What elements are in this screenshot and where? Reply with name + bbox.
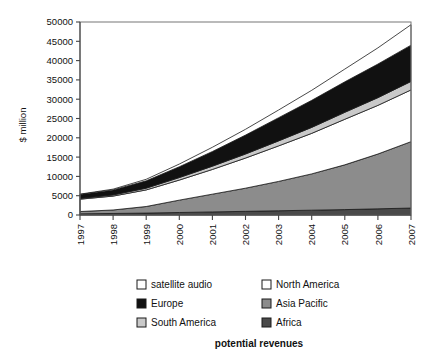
legend-label: Asia Pacific (276, 298, 328, 309)
legend-label: Europe (151, 298, 184, 309)
x-tick-label: 2007 (406, 224, 417, 245)
x-tick-label: 2002 (240, 224, 251, 245)
x-tick-label: 2006 (373, 224, 384, 245)
y-tick-label: 40000 (47, 55, 73, 66)
x-tick-label: 2003 (273, 224, 284, 245)
legend-swatch (137, 299, 146, 308)
y-tick-label: 10000 (47, 171, 73, 182)
y-tick-label: 50000 (47, 16, 73, 27)
chart-legend: satellite audioNorth AmericaEuropeAsia P… (137, 279, 340, 328)
y-tick-label: 20000 (47, 132, 73, 143)
legend-swatch (262, 318, 271, 327)
y-tick-label: 15000 (47, 152, 73, 163)
y-axis-title: $ million (17, 108, 28, 143)
legend-item-south-america[interactable]: South America (137, 317, 216, 328)
legend-label: South America (151, 317, 216, 328)
legend-item-africa[interactable]: Africa (262, 317, 302, 328)
chart-title: potential revenues (215, 338, 304, 349)
legend-swatch (262, 299, 271, 308)
y-tick-label: 25000 (47, 113, 73, 124)
legend-label: North America (276, 279, 340, 290)
legend-item-north-america[interactable]: North America (262, 279, 340, 290)
legend-label: Africa (276, 317, 302, 328)
x-tick-label: 2004 (306, 224, 317, 245)
stacked-area-chart: 0500010000150002000025000300003500040000… (0, 0, 427, 360)
x-tick-label: 2001 (207, 224, 218, 245)
legend-swatch (137, 318, 146, 327)
y-tick-label: 45000 (47, 36, 73, 47)
y-axis: 0500010000150002000025000300003500040000… (47, 16, 80, 220)
legend-label: satellite audio (151, 279, 213, 290)
legend-item-europe[interactable]: Europe (137, 298, 184, 309)
legend-swatch (137, 280, 146, 289)
y-tick-label: 30000 (47, 94, 73, 105)
legend-item-asia-pacific[interactable]: Asia Pacific (262, 298, 328, 309)
legend-item-satellite-audio[interactable]: satellite audio (137, 279, 213, 290)
x-tick-label: 2005 (339, 224, 350, 245)
x-tick-label: 2000 (174, 224, 185, 245)
area-bands (80, 25, 411, 215)
x-axis: 1997199819992000200120022003200420052006… (75, 215, 417, 245)
legend-swatch (262, 280, 271, 289)
x-tick-label: 1997 (75, 224, 86, 245)
x-tick-label: 1999 (141, 224, 152, 245)
y-tick-label: 35000 (47, 74, 73, 85)
y-tick-label: 0 (68, 209, 73, 220)
x-tick-label: 1998 (108, 224, 119, 245)
y-tick-label: 5000 (52, 190, 73, 201)
